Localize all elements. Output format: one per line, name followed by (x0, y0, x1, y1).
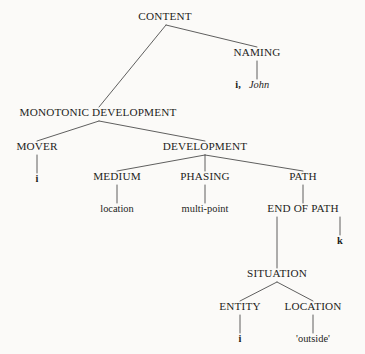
node-mover: MOVER (16, 140, 58, 152)
branch-content-naming (166, 25, 257, 47)
node-mover-index: i (36, 173, 39, 184)
branch-content-monotonic-development (99, 25, 166, 107)
node-content: CONTENT (138, 10, 191, 22)
node-end-of-path: END OF PATH (267, 202, 338, 214)
node-monotonic-development: MONOTONIC DEVELOPMENT (20, 106, 177, 118)
tree-diagram: CONTENT NAMING i, John MONOTONIC DEVELOP… (0, 0, 365, 354)
node-location-value: 'outside' (296, 333, 330, 344)
node-medium: MEDIUM (93, 170, 141, 182)
node-end-of-path-index: k (337, 235, 343, 246)
node-location: LOCATION (284, 300, 341, 312)
node-development: DEVELOPMENT (163, 140, 247, 152)
node-naming-index: i, (235, 79, 241, 90)
tree-diagram-canvas: CONTENT NAMING i, John MONOTONIC DEVELOP… (0, 0, 365, 354)
branch-monotonic-development-development (99, 121, 205, 141)
node-phasing: PHASING (180, 170, 230, 182)
branch-development-path (205, 155, 303, 171)
node-labels: CONTENT NAMING i, John MONOTONIC DEVELOP… (16, 10, 343, 344)
node-entity-index: i (239, 333, 242, 344)
branch-situation-location (277, 282, 313, 301)
branch-development-medium (117, 155, 205, 171)
branch-situation-entity (240, 282, 277, 301)
node-entity: ENTITY (219, 300, 260, 312)
node-medium-value: location (100, 203, 134, 214)
node-naming-word: John (249, 79, 269, 90)
node-path: PATH (289, 170, 317, 182)
node-situation: SITUATION (247, 267, 307, 279)
node-phasing-value: multi-point (182, 203, 229, 214)
branch-monotonic-development-mover (37, 121, 99, 141)
node-naming: NAMING (234, 46, 281, 58)
